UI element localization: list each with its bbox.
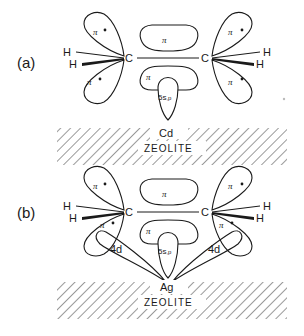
orbital-diagram: (a) π π H H π π H H xyxy=(0,0,304,336)
atom-h: H xyxy=(263,46,271,58)
svg-text:π: π xyxy=(146,72,151,82)
panel-label-b: (b) xyxy=(17,204,35,221)
svg-text:π: π xyxy=(93,181,98,191)
svg-text:π: π xyxy=(100,220,105,230)
svg-text:π: π xyxy=(93,27,98,37)
atom-h: H xyxy=(263,200,271,212)
svg-text:π: π xyxy=(87,77,92,87)
left-pi-star-upper-lobe: π xyxy=(84,12,124,56)
svg-text:π: π xyxy=(146,226,151,236)
right-pi-star-upper-lobe: π xyxy=(212,166,252,210)
svg-text:4d: 4d xyxy=(110,243,122,255)
atom-c-right: C xyxy=(201,206,209,218)
svg-text:π: π xyxy=(228,181,233,191)
pi-upper-lobe: π xyxy=(140,25,198,51)
atom-h: H xyxy=(63,46,71,58)
atom-h: H xyxy=(69,212,77,224)
pi-upper-lobe: π xyxy=(140,179,198,205)
metal-5sp-lobe: 5s,p xyxy=(158,78,178,121)
svg-text:4d: 4d xyxy=(208,243,220,255)
metal-5sp-lobe: 5s,p xyxy=(158,233,178,279)
atom-h: H xyxy=(63,200,71,212)
metal-atom-ag: Ag xyxy=(160,281,173,293)
atom-h: H xyxy=(256,58,264,70)
stray-dot xyxy=(283,98,285,100)
svg-text:5s,p: 5s,p xyxy=(158,93,172,102)
svg-text:π: π xyxy=(162,189,167,199)
svg-text:π: π xyxy=(228,77,233,87)
svg-text:π: π xyxy=(228,27,233,37)
atom-c-left: C xyxy=(125,52,133,64)
left-pi-star-lower-lobe: π xyxy=(84,60,124,104)
atom-h: H xyxy=(256,212,264,224)
panel-label-a: (a) xyxy=(17,54,35,71)
svg-text:5s,p: 5s,p xyxy=(158,247,172,256)
svg-text:π: π xyxy=(219,220,224,230)
metal-atom-cd: Cd xyxy=(159,127,173,139)
zeolite-label: ZEOLITE xyxy=(144,297,193,308)
atom-h: H xyxy=(69,58,77,70)
svg-text:π: π xyxy=(162,35,167,45)
zeolite-label: ZEOLITE xyxy=(144,143,193,154)
atom-c-right: C xyxy=(201,52,209,64)
panel-a: (a) π π H H π π H H xyxy=(17,12,287,165)
right-pi-star-lower-lobe: π xyxy=(212,60,252,104)
atom-c-left: C xyxy=(125,206,133,218)
panel-b: (b) π π 4d H H π π xyxy=(17,166,287,319)
left-pi-star-upper-lobe: π xyxy=(84,166,124,210)
right-pi-star-upper-lobe: π xyxy=(212,12,252,56)
